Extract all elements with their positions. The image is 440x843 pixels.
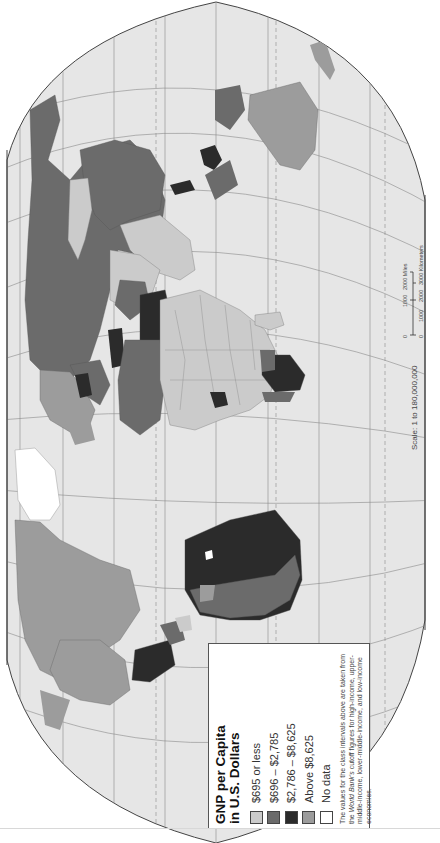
scale-km-3000: 3000 Kilometers [418, 245, 424, 285]
legend-label: Above $8,625 [303, 735, 315, 803]
swatch-high-income [302, 811, 315, 824]
swatch-no-data [320, 811, 333, 824]
scale-miles-2000: 2000 Miles [402, 263, 408, 290]
scale-miles-1000: 1000 [402, 295, 408, 307]
legend-item: $695 or less [248, 650, 264, 824]
legend-item: No data [318, 650, 334, 824]
legend-title-line1: GNP per Capita [214, 650, 228, 824]
scale-caption: Scale: 1 to 180,000,000 [410, 365, 419, 450]
legend-label: $695 or less [250, 743, 262, 803]
swatch-upper-middle-income [285, 811, 298, 824]
scale-miles-0: 0 [402, 335, 408, 338]
legend-label: $2,786 – $8,625 [285, 723, 297, 803]
region-venezuela [200, 585, 215, 602]
region-north-africa [118, 340, 165, 435]
legend-title: GNP per Capita in U.S. Dollars [214, 650, 242, 824]
scale-km-1000: 1000 [418, 310, 424, 322]
swatch-lower-middle-income [267, 811, 280, 824]
legend-label: No data [320, 764, 332, 803]
legend-item: $2,786 – $8,625 [283, 650, 299, 824]
legend-label: $696 – $2,785 [268, 733, 280, 803]
legend-item: Above $8,625 [301, 650, 317, 824]
scale-km-0: 0 [418, 335, 424, 338]
region-southern-africa [260, 350, 275, 372]
world-map: Scale: 1 to 180,000,000 0 1000 2000 Mile… [0, 0, 440, 843]
swatch-low-income [250, 811, 263, 824]
scale-km-2000: 2000 [418, 290, 424, 302]
legend-item: $696 – $2,785 [266, 650, 282, 824]
legend: GNP per Capita in U.S. Dollars $695 or l… [208, 643, 370, 829]
legend-title-line2: in U.S. Dollars [228, 650, 242, 824]
legend-note-italic: World Bank's [348, 771, 355, 812]
page-bottom-rule [0, 828, 440, 829]
legend-note: The values for the class intervals above… [339, 650, 373, 824]
region-namibia [262, 392, 295, 402]
